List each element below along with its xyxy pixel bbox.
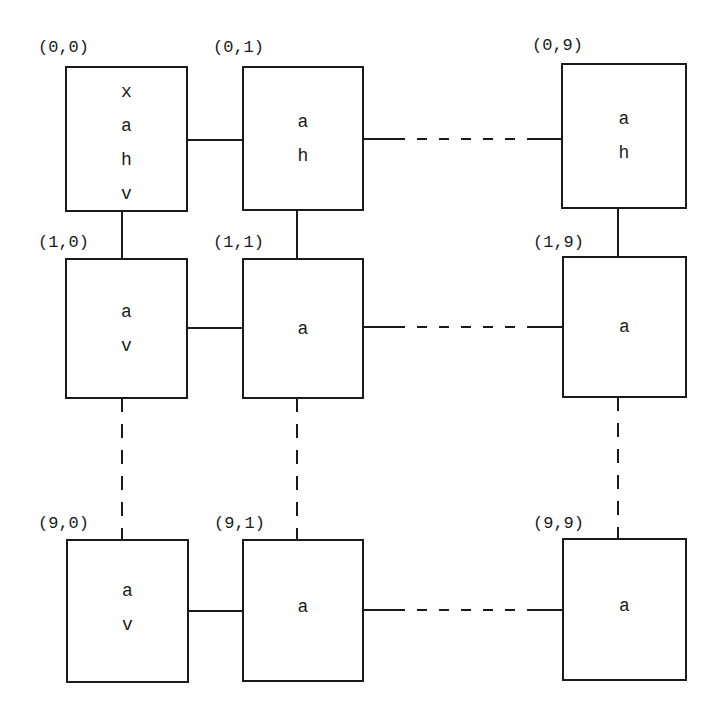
- node-text: h: [619, 136, 630, 170]
- grid-diagram: (0,0) x a h v (0,1) a h (0,9) a h (1,0) …: [0, 0, 723, 713]
- node-label-1-1: (1,1): [213, 233, 264, 252]
- node-label-9-0: (9,0): [38, 514, 89, 533]
- node-text: v: [122, 608, 133, 642]
- node-text: a: [619, 589, 630, 623]
- node-0-1: a h: [242, 66, 364, 211]
- node-text: v: [121, 329, 132, 363]
- node-0-9: a h: [561, 63, 687, 209]
- node-text: v: [121, 177, 132, 211]
- node-label-0-0: (0,0): [38, 38, 89, 57]
- node-9-0: a v: [66, 539, 189, 683]
- node-text: h: [298, 139, 309, 173]
- node-label-9-9: (9,9): [533, 514, 584, 533]
- node-label-9-1: (9,1): [214, 514, 265, 533]
- node-9-1: a: [242, 539, 364, 682]
- node-text: a: [121, 109, 132, 143]
- node-text: x: [121, 75, 132, 109]
- node-9-9: a: [562, 538, 687, 681]
- node-1-1: a: [242, 258, 364, 399]
- node-label-1-0: (1,0): [38, 233, 89, 252]
- node-label-0-1: (0,1): [213, 38, 264, 57]
- node-text: a: [619, 102, 630, 136]
- node-text: a: [298, 105, 309, 139]
- node-text: a: [121, 295, 132, 329]
- node-text: a: [298, 312, 309, 346]
- node-1-9: a: [562, 256, 687, 398]
- node-1-0: a v: [65, 258, 188, 399]
- node-text: a: [298, 590, 309, 624]
- node-text: a: [619, 310, 630, 344]
- node-text: h: [121, 143, 132, 177]
- node-label-1-9: (1,9): [533, 233, 584, 252]
- node-0-0: x a h v: [65, 66, 188, 212]
- node-text: a: [122, 574, 133, 608]
- node-label-0-9: (0,9): [532, 36, 583, 55]
